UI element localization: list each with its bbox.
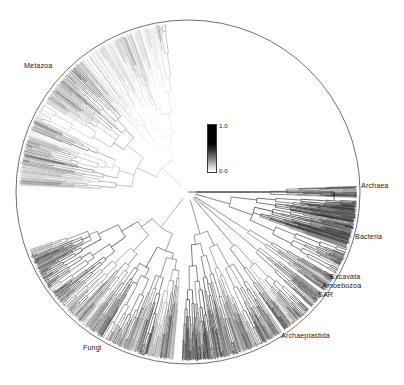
label-bacteria: Bacteria [355, 233, 382, 241]
tree-canvas [0, 0, 404, 385]
label-fungi: Fungi [83, 344, 101, 352]
branch-support-colorbar [207, 124, 217, 173]
colorbar-gradient [207, 124, 217, 173]
tree-branches [19, 25, 357, 361]
colorbar-max-tick: 1.0 [219, 122, 228, 129]
label-metazoa: Metazoa [24, 62, 52, 70]
colorbar-min-tick: 0.0 [219, 167, 228, 174]
label-archaea: Archaea [361, 182, 388, 190]
label-sar: SAR [318, 291, 333, 299]
label-archaeplastida: Archaeplastida [281, 332, 330, 340]
phylogenetic-tree-figure: 1.0 0.0 Metazoa Archaea Bacteria Excavat… [0, 0, 404, 385]
